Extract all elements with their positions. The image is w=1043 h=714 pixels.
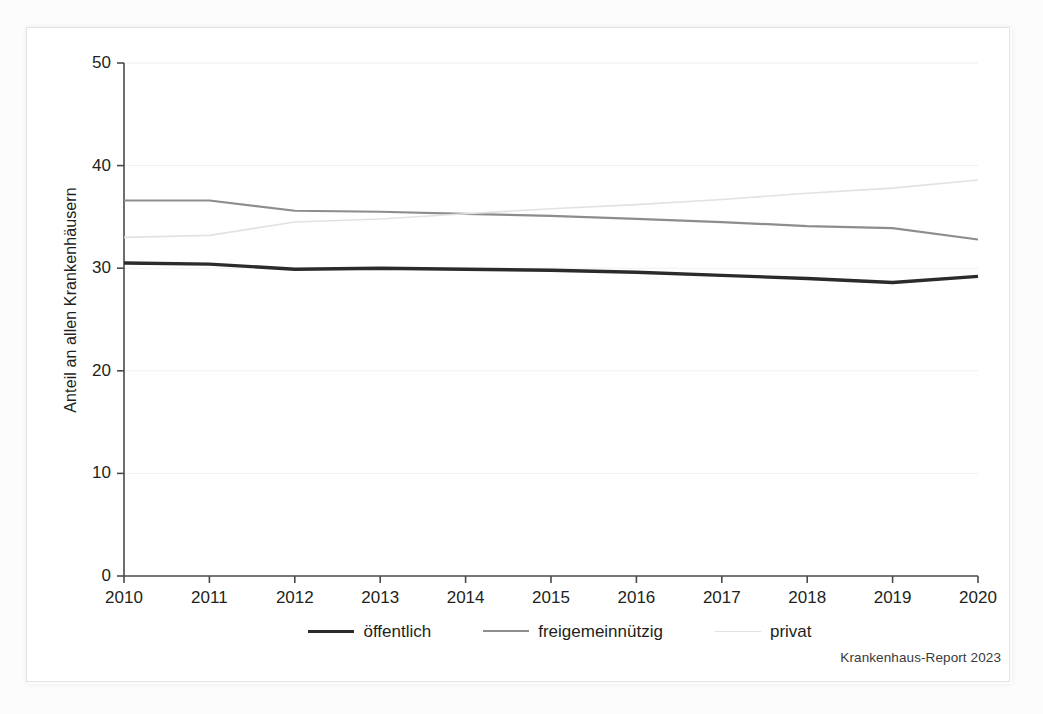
line-chart: Anteil an allen Krankenhäusern 010203040… <box>0 0 1043 714</box>
legend-label: öffentlich <box>363 623 431 640</box>
legend-entry-2[interactable]: privat <box>715 623 812 640</box>
data-series-layer <box>124 180 978 283</box>
y-tick-label: 40 <box>67 157 111 174</box>
y-tick-label: 20 <box>67 362 111 379</box>
y-tick-label: 0 <box>67 567 111 584</box>
legend-line-swatch-icon <box>308 630 354 633</box>
source-caption: Krankenhaus-Report 2023 <box>840 650 1001 665</box>
x-tick-label: 2017 <box>683 589 761 606</box>
chart-legend: öffentlichfreigemeinnützigprivat <box>165 618 955 644</box>
series-line-1 <box>124 200 978 239</box>
x-tick-label: 2011 <box>170 589 248 606</box>
x-tick-label: 2019 <box>854 589 932 606</box>
axes <box>124 63 978 576</box>
legend-entry-0[interactable]: öffentlich <box>308 623 431 640</box>
x-tick-label: 2020 <box>939 589 1017 606</box>
series-line-0 <box>124 263 978 282</box>
y-axis-title: Anteil an allen Krankenhäusern <box>62 40 84 560</box>
series-line-2 <box>124 180 978 237</box>
x-tick-label: 2015 <box>512 589 590 606</box>
x-tick-label: 2010 <box>85 589 163 606</box>
x-tick-label: 2016 <box>597 589 675 606</box>
legend-label: privat <box>770 623 812 640</box>
x-tick-label: 2012 <box>256 589 334 606</box>
x-tick-label: 2018 <box>768 589 846 606</box>
axis-ticks <box>117 63 978 583</box>
y-tick-label: 10 <box>67 464 111 481</box>
x-tick-label: 2013 <box>341 589 419 606</box>
legend-line-swatch-icon <box>483 630 529 632</box>
legend-line-swatch-icon <box>715 631 761 632</box>
y-tick-label: 50 <box>67 54 111 71</box>
figure-root: Anteil an allen Krankenhäusern 010203040… <box>0 0 1043 714</box>
y-tick-label: 30 <box>67 259 111 276</box>
legend-entry-1[interactable]: freigemeinnützig <box>483 623 663 640</box>
legend-label: freigemeinnützig <box>538 623 663 640</box>
x-tick-label: 2014 <box>427 589 505 606</box>
